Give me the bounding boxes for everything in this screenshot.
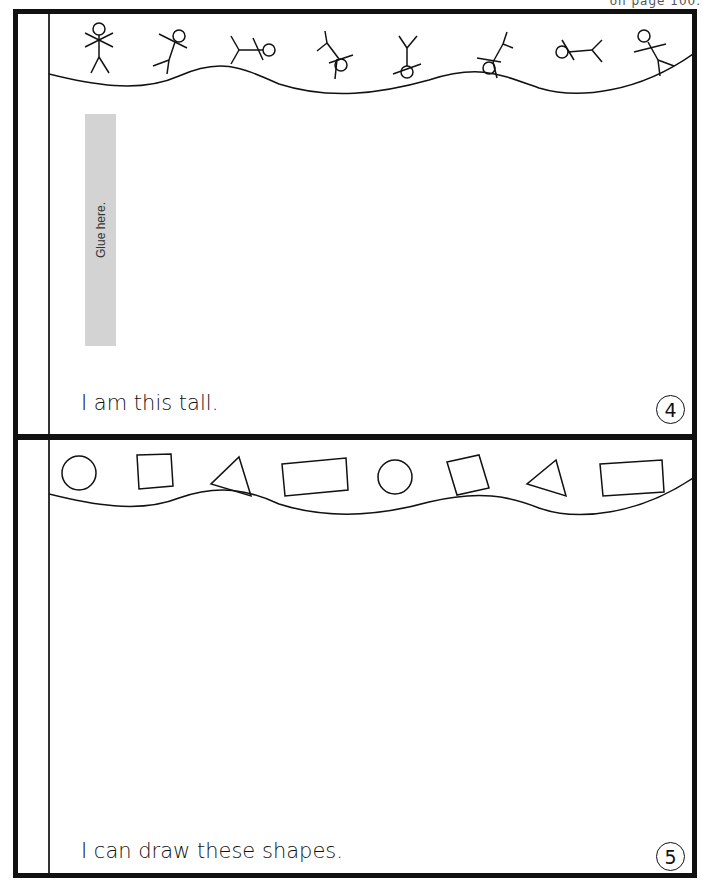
page-caption: I can draw these shapes. [81, 839, 343, 863]
rectangle-shape [600, 460, 664, 496]
booklet-page-5: I can draw these shapes. 5 [13, 434, 697, 878]
shape-border [49, 440, 693, 530]
circle-shape [62, 456, 96, 490]
stick-figure-border [49, 14, 693, 104]
square-shape [447, 455, 489, 495]
page-number-badge: 4 [656, 395, 685, 424]
square-shape [137, 454, 173, 489]
clipped-header-text: on page 100. [610, 0, 701, 8]
rectangle-shape [282, 458, 348, 496]
triangle-shape [527, 460, 566, 496]
glue-label: Glue here. [94, 202, 108, 258]
page-caption: I am this tall. [81, 391, 218, 415]
shapes [62, 454, 664, 496]
page-number-badge: 5 [656, 842, 685, 871]
booklet-page-4: Glue here. I am this tall. 4 [13, 9, 697, 440]
glue-area: Glue here. [85, 114, 116, 346]
circle-shape [378, 460, 412, 494]
stick-figures [85, 23, 674, 79]
